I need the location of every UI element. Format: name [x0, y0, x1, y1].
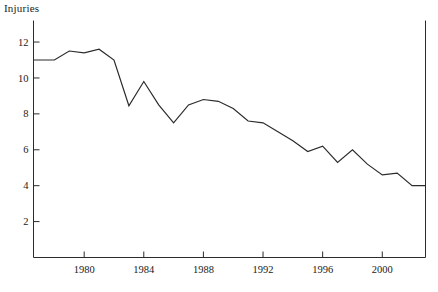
plot-frame — [34, 21, 426, 258]
y-tick-label: 4 — [23, 180, 29, 191]
y-tick-label: 8 — [23, 108, 28, 119]
x-tick-label: 1992 — [253, 264, 274, 275]
y-tick-label: 6 — [23, 144, 28, 155]
x-tick-label: 1988 — [193, 264, 214, 275]
y-axis-ticks: 24681012 — [18, 37, 40, 228]
x-tick-label: 1984 — [133, 264, 155, 275]
x-axis-ticks: 198019841988199219962000 — [74, 252, 393, 275]
data-series-injuries — [34, 49, 426, 185]
x-tick-label: 2000 — [372, 264, 393, 275]
series-line-injuries — [34, 49, 426, 185]
y-tick-label: 10 — [18, 73, 29, 84]
y-tick-label: 2 — [23, 216, 28, 227]
x-tick-label: 1980 — [74, 264, 95, 275]
injuries-line-chart: Injuries 24681012 1980198419881992199620… — [0, 0, 438, 292]
x-tick-label: 1996 — [312, 264, 333, 275]
chart-plot-area: 24681012 198019841988199219962000 — [0, 0, 438, 292]
y-tick-label: 12 — [18, 37, 29, 48]
